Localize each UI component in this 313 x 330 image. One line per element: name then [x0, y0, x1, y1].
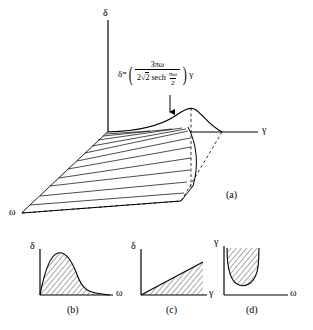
- equation-close-paren: ): [183, 65, 187, 83]
- main-3d-plot: [22, 20, 258, 213]
- equation-fraction: 3πω 2√2 sech πω 2: [135, 60, 180, 87]
- panel-b-x-label: ω: [116, 288, 123, 298]
- panel-d-x-label: ω: [290, 288, 297, 298]
- panel-c-caption: (c): [166, 305, 177, 315]
- main-omega-axis-label: ω: [9, 207, 16, 217]
- panel-d-hatch-region: [227, 248, 259, 286]
- equation-inner-den: 2: [170, 78, 176, 87]
- main-gamma-axis-label: γ: [262, 125, 266, 135]
- figure-root: [0, 0, 313, 330]
- main-delta-axis-label: δ: [103, 8, 108, 18]
- equation-equals: =: [122, 69, 127, 78]
- panel-b: [40, 249, 113, 295]
- panel-d-caption: (d): [246, 305, 258, 315]
- panel-c-x-label: γ: [209, 288, 213, 298]
- equation-sech: sech: [151, 73, 165, 82]
- equation-open-paren: (: [128, 65, 132, 83]
- panel-d-y-label: γ: [214, 237, 218, 247]
- panel-c: [141, 249, 207, 295]
- threshold-equation: δ = ( 3πω 2√2 sech πω 2 ) γ: [118, 60, 193, 87]
- panel-a-caption: (a): [226, 190, 237, 200]
- equation-numerator: 3πω: [149, 60, 166, 69]
- panel-d: [224, 246, 288, 295]
- panel-b-y-label: δ: [30, 241, 35, 251]
- panel-b-hatch-region: [40, 253, 110, 295]
- equation-inner-fraction: πω 2: [168, 70, 178, 87]
- equation-rhs-factor: γ: [189, 69, 193, 79]
- equation-sqrt-arg: 2: [145, 72, 149, 82]
- equation-inner-num: πω: [168, 70, 178, 78]
- panel-b-caption: (b): [67, 305, 79, 315]
- panel-c-y-label: δ: [131, 241, 136, 251]
- equation-denominator: 2√2 sech πω 2: [135, 69, 180, 87]
- surface-fill: [22, 127, 196, 213]
